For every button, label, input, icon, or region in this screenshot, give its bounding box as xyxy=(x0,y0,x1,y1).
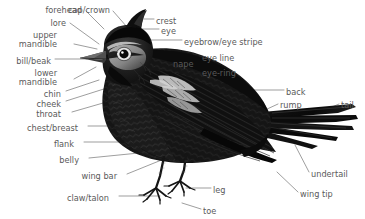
label-cheek: cheek xyxy=(36,100,61,109)
label-leg: leg xyxy=(213,186,226,195)
leader-chin xyxy=(66,80,99,91)
leader-lore xyxy=(70,23,99,44)
label-toe: toe xyxy=(203,207,216,216)
bird-anatomy-diagram: foreheadcap/crowncresteyeloreeyebrow/eye… xyxy=(0,0,365,219)
label-lower-mandible: lower mandible xyxy=(19,69,57,88)
label-flank: flank xyxy=(54,140,74,149)
leader-wing-bar xyxy=(127,159,164,174)
label-chest-breast: chest/breast xyxy=(27,124,78,133)
label-back: back xyxy=(286,88,305,97)
label-wing-tip: wing tip xyxy=(300,190,333,199)
leader-wing-tip xyxy=(277,172,298,192)
label-eye: eye xyxy=(161,27,176,36)
leader-toe xyxy=(182,203,201,209)
leader-upper-mandible xyxy=(74,44,97,49)
label-claw-talon: claw/talon xyxy=(67,194,109,203)
label-wing-bar: wing bar xyxy=(81,172,117,181)
label-belly: belly xyxy=(59,156,79,165)
leader-cheek xyxy=(66,88,107,101)
tail-feathers xyxy=(257,104,358,149)
label-eye-ring: eye-ring xyxy=(202,69,236,78)
label-rump: rump xyxy=(280,101,302,110)
bill xyxy=(80,51,106,63)
label-cap-crown: cap/crown xyxy=(68,6,110,15)
label-eyebrow-eye-stripe: eyebrow/eye stripe xyxy=(184,38,263,47)
label-tail: tail xyxy=(341,101,354,110)
label-crest: crest xyxy=(156,17,176,26)
label-upper-mandible: upper mandible xyxy=(19,31,57,50)
leader-cap-crown xyxy=(113,11,127,27)
label-nape: nape xyxy=(173,60,193,69)
leader-lower-mandible xyxy=(74,67,96,79)
label-bill-beak: bill/beak xyxy=(16,57,51,66)
label-chin: chin xyxy=(44,90,61,99)
label-undertail: undertail xyxy=(311,170,348,179)
label-throat: throat xyxy=(36,110,61,119)
label-eye-line: eye line xyxy=(202,54,234,63)
leader-undertail xyxy=(295,145,309,172)
label-lore: lore xyxy=(50,19,66,28)
